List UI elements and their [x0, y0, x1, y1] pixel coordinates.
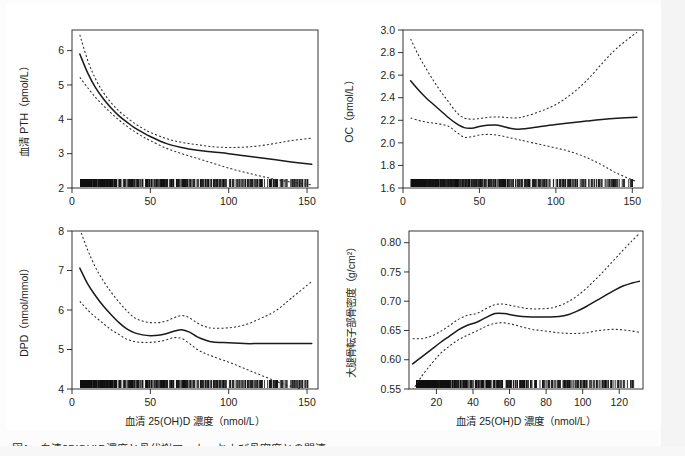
x-tick-label: 100	[574, 396, 592, 408]
y-tick-label: 2.2	[380, 114, 395, 126]
y-tick-label: 3.0	[380, 24, 395, 36]
panel-dpd-svg: 45678050100150DPD（nmol/mmol）血清 25(OH)D 濃…	[6, 211, 336, 430]
y-tick-label: 5	[58, 79, 64, 91]
x-tick-label: 20	[431, 396, 443, 408]
figure-root: 23456050100150血清 PTH（pmol/L） 1.61.82.02.…	[0, 0, 685, 456]
x-axis-title: 血清 25(OH)D 濃度（nmol/L）	[456, 415, 595, 427]
panel-bmd: 0.550.600.650.700.750.8020406080100120大腿…	[331, 211, 661, 430]
panel-oc-svg: 1.61.82.02.22.42.62.83.0050100150OC（pmol…	[331, 4, 661, 216]
y-tick-label: 1.6	[380, 182, 395, 194]
rug-plot	[411, 179, 632, 187]
y-tick-label: 1.8	[380, 159, 395, 171]
y-tick-label: 0.75	[381, 266, 402, 278]
y-tick-label: 0.80	[381, 236, 402, 248]
series-lower_ci	[80, 77, 312, 185]
x-tick-label: 80	[540, 396, 552, 408]
y-tick-label: 4	[58, 383, 64, 395]
series-fit	[80, 54, 312, 164]
y-axis-title: 血清 PTH（pmol/L）	[18, 61, 30, 156]
rug-plot	[81, 380, 308, 388]
y-tick-label: 2	[58, 182, 64, 194]
y-tick-label: 7	[58, 264, 64, 276]
panel-pth-svg: 23456050100150血清 PTH（pmol/L）	[6, 4, 336, 216]
plot-frame	[72, 231, 318, 389]
x-tick-label: 150	[624, 195, 642, 207]
x-tick-label: 150	[298, 396, 316, 408]
y-tick-label: 5	[58, 343, 64, 355]
rug-plot	[417, 380, 633, 388]
series-upper_ci	[80, 35, 312, 148]
y-tick-label: 6	[58, 304, 64, 316]
x-tick-label: 0	[400, 195, 406, 207]
panel-bmd-svg: 0.550.600.650.700.750.8020406080100120大腿…	[331, 211, 661, 430]
series-fit	[413, 281, 640, 364]
y-tick-label: 3	[58, 147, 64, 159]
y-axis-title: 大腿骨転子部骨密度（g/cm²）	[345, 242, 357, 378]
y-tick-label: 4	[58, 113, 64, 125]
y-tick-label: 0.70	[381, 295, 402, 307]
page-right-margin	[661, 0, 685, 456]
series-lower_ci	[80, 301, 312, 391]
x-tick-label: 40	[467, 396, 479, 408]
x-tick-label: 100	[220, 195, 238, 207]
y-axis-title: OC（pmol/L）	[343, 75, 355, 142]
series-lower_ci	[411, 118, 637, 182]
x-tick-label: 50	[145, 396, 157, 408]
y-tick-label: 2.6	[380, 69, 395, 81]
y-axis-title: DPD（nmol/mmol）	[18, 263, 30, 357]
y-tick-label: 6	[58, 44, 64, 56]
panel-dpd: 45678050100150DPD（nmol/mmol）血清 25(OH)D 濃…	[6, 211, 336, 430]
y-tick-label: 2.4	[380, 91, 395, 103]
series-upper_ci	[411, 32, 637, 119]
x-tick-label: 50	[145, 195, 157, 207]
y-tick-label: 2.0	[380, 137, 395, 149]
y-tick-label: 8	[58, 225, 64, 237]
x-tick-label: 0	[69, 396, 75, 408]
x-tick-label: 0	[69, 195, 75, 207]
x-tick-label: 120	[610, 396, 628, 408]
y-tick-label: 0.55	[381, 383, 402, 395]
x-axis-title: 血清 25(OH)D 濃度（nmol/L）	[125, 415, 264, 427]
panel-pth: 23456050100150血清 PTH（pmol/L）	[6, 4, 336, 216]
figure-canvas: 23456050100150血清 PTH（pmol/L） 1.61.82.02.…	[6, 4, 661, 430]
rug-plot	[81, 179, 308, 187]
y-tick-label: 0.60	[381, 353, 402, 365]
plot-frame	[409, 231, 643, 389]
y-tick-label: 0.65	[381, 324, 402, 336]
series-upper_ci	[413, 233, 640, 339]
x-tick-label: 100	[547, 195, 565, 207]
panel-oc: 1.61.82.02.22.42.62.83.0050100150OC（pmol…	[331, 4, 661, 216]
series-fit	[411, 81, 637, 130]
series-upper_ci	[80, 229, 312, 328]
x-tick-label: 100	[220, 396, 238, 408]
plot-frame	[72, 30, 318, 188]
page-bottom-margin	[0, 446, 685, 456]
x-tick-label: 60	[504, 396, 516, 408]
y-tick-label: 2.8	[380, 46, 395, 58]
x-tick-label: 50	[474, 195, 486, 207]
x-tick-label: 150	[298, 195, 316, 207]
